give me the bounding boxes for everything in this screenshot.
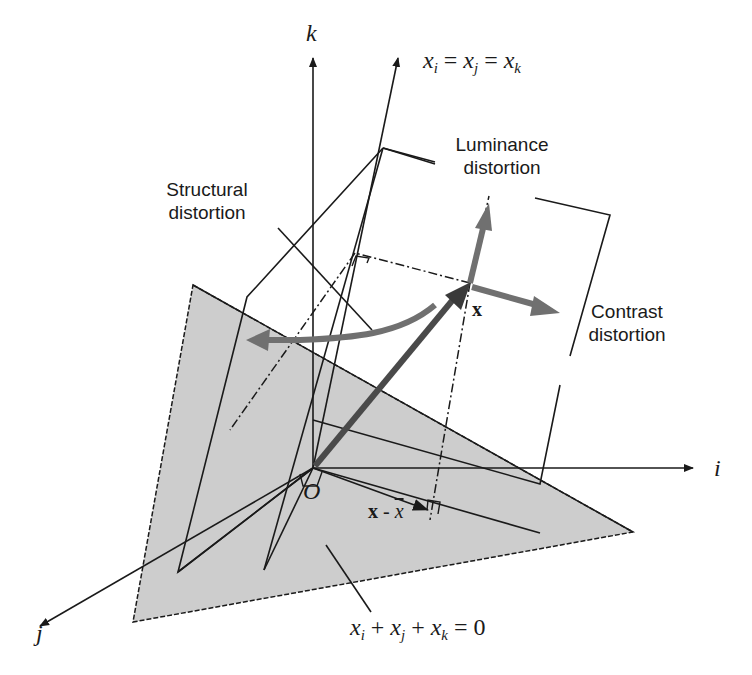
j-axis-label: j — [36, 620, 43, 647]
structural-distortion-label: Structural distortion — [152, 178, 262, 224]
x-minus-mean-label: x - x — [368, 500, 404, 523]
contrast-distortion-label: Contrast distortion — [572, 300, 682, 346]
origin-label: O — [303, 478, 320, 505]
luminance-distortion-label: Luminance distortion — [442, 133, 562, 179]
luminance-arrow — [470, 220, 485, 283]
diagonal-equation: xi = xj = xk — [423, 47, 521, 77]
vector-x-label: x — [472, 298, 482, 321]
contrast-arrowhead — [530, 296, 560, 316]
k-axis-label: k — [306, 20, 317, 47]
contrast-arrow — [472, 287, 540, 306]
plane-equation: xi + xj + xk = 0 — [350, 614, 486, 644]
structural-arrow — [262, 305, 435, 340]
structural-pointer — [278, 228, 372, 330]
luminance-arrowhead — [475, 203, 492, 231]
distortion-diagram: k i j O xi = xj = xk xi + xj + xk = 0 Lu… — [0, 0, 752, 675]
luminance-pointer — [383, 148, 435, 164]
i-axis-label: i — [714, 455, 721, 482]
